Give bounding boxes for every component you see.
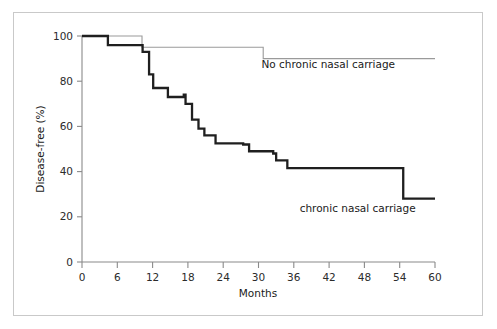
- y-tick-label: 80: [60, 75, 73, 87]
- y-axis-ticks: 020406080100: [53, 30, 82, 268]
- y-tick-label: 40: [60, 165, 73, 177]
- x-tick-label: 36: [287, 271, 301, 283]
- y-tick-label: 100: [53, 30, 73, 42]
- x-tick-label: 18: [181, 271, 194, 283]
- x-axis-title: Months: [239, 287, 277, 299]
- x-tick-label: 60: [428, 271, 441, 283]
- x-tick-label: 6: [114, 271, 121, 283]
- y-tick-label: 60: [60, 120, 73, 132]
- kaplan-meier-chart: 020406080100 06121824303642485460 Months…: [0, 0, 497, 329]
- x-tick-label: 12: [146, 271, 159, 283]
- y-axis-title: Disease-free (%): [34, 105, 46, 192]
- series-label: No chronic nasal carriage: [261, 58, 395, 70]
- series-label: chronic nasal carriage: [300, 202, 416, 214]
- x-tick-label: 0: [79, 271, 86, 283]
- figure-root: 020406080100 06121824303642485460 Months…: [0, 0, 497, 329]
- x-tick-label: 24: [217, 271, 231, 283]
- series-annotations: No chronic nasal carriagechronic nasal c…: [261, 58, 415, 215]
- x-tick-label: 54: [393, 271, 407, 283]
- y-tick-label: 20: [60, 210, 73, 222]
- x-tick-label: 48: [358, 271, 371, 283]
- axes-group: [82, 36, 435, 262]
- x-tick-label: 42: [322, 271, 335, 283]
- series-step-line: [82, 36, 435, 59]
- x-tick-label: 30: [252, 271, 265, 283]
- y-tick-label: 0: [66, 256, 73, 268]
- x-axis-ticks: 06121824303642485460: [79, 262, 442, 283]
